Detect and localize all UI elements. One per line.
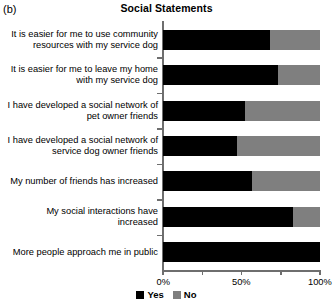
stacked-bar [163,65,320,85]
y-tick [157,199,162,201]
bar-row [163,65,320,85]
category-label: It is easier for me to leave my home wit… [6,64,158,86]
category-label: My social interactions have increased [6,206,158,228]
stacked-bar [163,171,320,191]
bar-row [163,30,320,50]
legend-swatch-icon [173,291,181,299]
legend-item-yes[interactable]: Yes [136,290,163,300]
legend-label: Yes [147,290,163,300]
x-tick [319,270,321,275]
stacked-bar [163,30,320,50]
y-tick [157,128,162,130]
bar-row [163,207,320,227]
x-tick-label: 0% [157,277,170,288]
chart-legend: YesNo [0,290,333,300]
stacked-bar [163,101,320,121]
bar-segment-yes [163,65,278,85]
bar-row [163,101,320,121]
legend-item-no[interactable]: No [173,290,197,300]
x-tick [280,270,282,275]
y-tick [157,235,162,237]
x-tick [162,270,164,275]
x-tick [241,270,243,275]
bar-segment-yes [163,207,293,227]
y-tick [157,164,162,166]
bar-segment-yes [163,242,320,262]
category-label: More people approach me in public [6,247,158,258]
bar-segment-yes [163,136,237,156]
chart-title: Social Statements [0,2,333,14]
bar-segment-yes [163,101,245,121]
stacked-bar [163,207,320,227]
bar-row [163,136,320,156]
bar-segment-no [252,171,320,191]
legend-swatch-icon [136,291,144,299]
x-tick-label: 50% [232,277,251,288]
legend-label: No [184,290,197,300]
category-label: It is easier for me to use community res… [6,29,158,51]
bar-row [163,242,320,262]
bar-segment-no [270,30,320,50]
y-tick [157,57,162,59]
category-label: My number of friends has increased [6,176,158,187]
y-tick [157,93,162,95]
bar-row [163,171,320,191]
x-tick [202,270,204,275]
stacked-bar [163,242,320,262]
bar-segment-yes [163,171,252,191]
category-label: I have developed a social network of ser… [6,135,158,157]
bar-segment-no [245,101,320,121]
stacked-bar [163,136,320,156]
x-tick-label: 100% [308,277,332,288]
bar-segment-no [278,65,320,85]
bar-segment-no [237,136,320,156]
category-label: I have developed a social network of pet… [6,100,158,122]
plot-area [163,22,320,270]
bar-segment-no [293,207,320,227]
bar-segment-yes [163,30,270,50]
